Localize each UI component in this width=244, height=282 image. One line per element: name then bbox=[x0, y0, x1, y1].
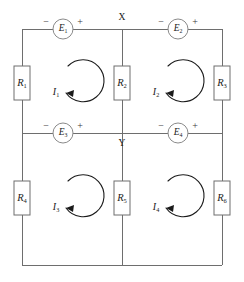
resistor-label-r5-sub: 5 bbox=[124, 197, 127, 204]
current-label-i1-sub: 1 bbox=[56, 91, 59, 98]
polarity-plus-e4: + bbox=[192, 121, 198, 131]
resistor-label-r1: R1 bbox=[17, 78, 27, 89]
polarity-minus-e3: − bbox=[43, 121, 49, 131]
source-label-e3-sub: 3 bbox=[64, 132, 67, 138]
resistor-label-r3: R3 bbox=[217, 78, 227, 89]
current-loop-arrow-i3 bbox=[66, 175, 104, 217]
source-label-e2-sub: 2 bbox=[179, 28, 182, 34]
current-label-i2-sub: 2 bbox=[156, 91, 159, 98]
polarity-minus-e2: − bbox=[158, 17, 164, 27]
current-label-i4: I4 bbox=[153, 202, 159, 212]
source-label-e4: E4 bbox=[174, 128, 183, 138]
polarity-plus-e2: + bbox=[192, 17, 198, 27]
resistor-label-r1-sub: 1 bbox=[24, 82, 27, 89]
node-label-y: Y bbox=[119, 139, 126, 149]
source-label-e3: E3 bbox=[59, 128, 68, 138]
resistor-label-r2-sub: 2 bbox=[124, 82, 127, 89]
resistor-label-r5: R5 bbox=[117, 193, 127, 204]
source-label-e1-sub: 1 bbox=[64, 28, 67, 34]
source-label-e2-text: E bbox=[174, 23, 180, 33]
current-loop-arrow-i4 bbox=[166, 175, 204, 217]
current-label-i4-sub: 4 bbox=[156, 206, 159, 213]
resistor-label-r6: R6 bbox=[217, 193, 227, 204]
resistor-label-r3-sub: 3 bbox=[224, 82, 227, 89]
resistor-label-r4-sub: 4 bbox=[24, 197, 27, 204]
polarity-plus-e3: + bbox=[77, 121, 83, 131]
resistor-label-r4: R4 bbox=[17, 193, 27, 204]
current-label-i1: I1 bbox=[53, 87, 59, 97]
source-label-e3-text: E bbox=[59, 127, 65, 137]
source-label-e4-sub: 4 bbox=[179, 132, 182, 138]
current-label-i3-sub: 3 bbox=[56, 206, 59, 213]
current-label-i2: I2 bbox=[153, 87, 159, 97]
source-label-e4-text: E bbox=[174, 127, 180, 137]
current-label-i3: I3 bbox=[53, 202, 59, 212]
polarity-plus-e1: + bbox=[77, 17, 83, 27]
node-label-x: X bbox=[119, 13, 126, 23]
current-loop-arrow-i2 bbox=[166, 60, 204, 102]
source-label-e2: E2 bbox=[174, 24, 183, 34]
polarity-minus-e1: − bbox=[43, 17, 49, 27]
resistor-label-r2: R2 bbox=[117, 78, 127, 89]
resistor-label-r6-sub: 6 bbox=[224, 197, 227, 204]
polarity-minus-e4: − bbox=[158, 121, 164, 131]
source-label-e1: E1 bbox=[59, 24, 68, 34]
current-loop-arrow-i1 bbox=[66, 60, 104, 102]
circuit-diagram: X Y R1 R2 R3 R4 R5 R6 E1 E2 E3 E4 − + − … bbox=[0, 0, 244, 282]
source-label-e1-text: E bbox=[59, 23, 65, 33]
